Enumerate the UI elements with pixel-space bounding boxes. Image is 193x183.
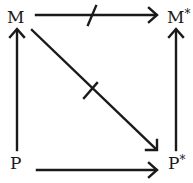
arrow-p-to-p-star <box>37 163 157 177</box>
diagram-arrows <box>0 0 193 183</box>
arrow-p-to-m <box>10 29 24 150</box>
arrow-p-star-to-m-star <box>169 29 183 150</box>
arrow-m-to-p-star <box>32 30 157 150</box>
arrow-m-to-m-star <box>36 6 157 25</box>
